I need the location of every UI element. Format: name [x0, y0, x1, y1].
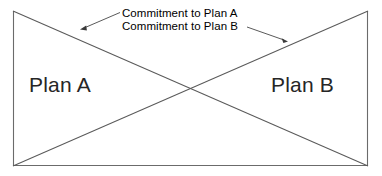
- plan-b-label: Plan B: [271, 74, 334, 95]
- leader-line-plan-a: [84, 13, 120, 29]
- annotation-commitment-plan-b: Commitment to Plan B: [122, 20, 238, 32]
- annotation-commitment-plan-a: Commitment to Plan A: [122, 7, 238, 19]
- plan-a-label: Plan A: [29, 74, 91, 95]
- annotation-block: Commitment to Plan A Commitment to Plan …: [122, 7, 238, 33]
- arrowhead-plan-b: [282, 38, 288, 43]
- diagram-canvas: Plan A Plan B Commitment to Plan A Commi…: [0, 0, 382, 176]
- leader-line-plan-b: [247, 27, 284, 40]
- arrowhead-plan-a: [80, 26, 87, 31]
